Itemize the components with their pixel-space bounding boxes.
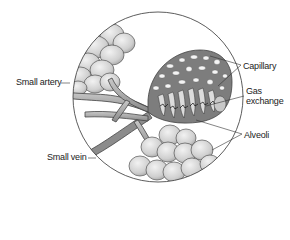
label-capillary: Capillary [243, 61, 276, 71]
label-alveoli: Alveoli [244, 130, 269, 140]
label-gas-exchange-line1: Gas [246, 86, 283, 96]
label-gas-exchange: Gas exchange [246, 86, 283, 106]
label-small-vein: Small vein [47, 152, 87, 162]
label-gas-exchange-line2: exchange [246, 96, 283, 106]
label-small-artery: Small artery [16, 77, 62, 87]
